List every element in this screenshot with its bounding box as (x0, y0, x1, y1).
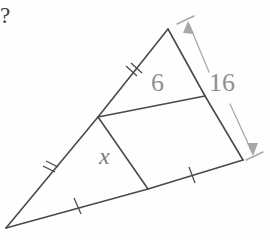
dimension-tick-top (177, 16, 194, 24)
geometry-figure: ? 6 16 x (0, 0, 270, 240)
dimension-arrowhead-up (183, 21, 194, 34)
triangle-side-right-upper (168, 29, 205, 96)
question-mark-label: ? (0, 4, 10, 27)
lower-left-double-tick (43, 161, 58, 172)
triangle-side-right-lower (205, 96, 243, 160)
unknown-length-label: x (99, 144, 110, 168)
triangle-base-right (148, 160, 243, 189)
dimension-tick-bottom (246, 152, 263, 160)
dimension-arrowhead-down (247, 143, 258, 156)
triangle-side-left-lower (6, 117, 98, 228)
inner-parallelogram (98, 96, 205, 189)
base-left-single-tick (74, 198, 81, 214)
midsegment-length-label: 6 (151, 70, 164, 96)
triangle-base-left (6, 189, 148, 228)
right-side-length-label: 16 (209, 70, 235, 96)
main-triangle (6, 29, 243, 228)
geometry-drawing (0, 0, 270, 240)
midsegment-line (98, 96, 205, 117)
